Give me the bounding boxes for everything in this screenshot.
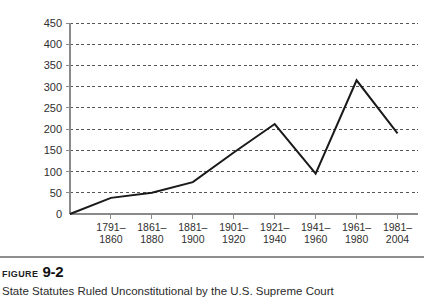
x-axis-tick-label: 1901–1920 xyxy=(219,221,248,245)
figure-container: 0501001502002503003504004501791–18601861… xyxy=(0,0,424,300)
y-axis-tick-label: 400 xyxy=(44,38,62,50)
y-axis-tick-label: 150 xyxy=(44,144,62,156)
x-axis-tick-label: 1921–1940 xyxy=(260,221,289,245)
figure-caption: Figure9-2 State Statutes Ruled Unconstit… xyxy=(0,256,424,298)
chart-area: 0501001502002503003504004501791–18601861… xyxy=(0,0,424,252)
x-axis-tick-label: 1861–1880 xyxy=(137,221,166,245)
x-axis-tick-label: 1961–1980 xyxy=(342,221,371,245)
y-axis-tick-label: 100 xyxy=(44,166,62,178)
figure-number: 9-2 xyxy=(42,263,63,280)
figure-subtitle: State Statutes Ruled Unconstitutional by… xyxy=(2,285,424,299)
y-axis-tick-label: 0 xyxy=(56,208,62,220)
data-series-line xyxy=(70,80,398,214)
y-axis-tick-label: 250 xyxy=(44,102,62,114)
x-axis-tick-label: 1981–2004 xyxy=(383,221,412,245)
y-axis-tick-label: 350 xyxy=(44,59,62,71)
x-axis-tick-label: 1941–1960 xyxy=(301,221,330,245)
y-axis-tick-label: 450 xyxy=(44,17,62,29)
y-axis-tick-label: 50 xyxy=(50,187,62,199)
caption-divider xyxy=(0,256,424,258)
figure-label-line: Figure9-2 xyxy=(0,263,424,281)
y-axis-tick-label: 200 xyxy=(44,123,62,135)
x-axis-tick-label: 1791–1860 xyxy=(96,221,125,245)
x-axis-tick-label: 1881–1900 xyxy=(178,221,207,245)
line-chart: 0501001502002503003504004501791–18601861… xyxy=(0,0,424,252)
y-axis-tick-label: 300 xyxy=(44,81,62,93)
figure-label-word: Figure xyxy=(2,269,38,279)
